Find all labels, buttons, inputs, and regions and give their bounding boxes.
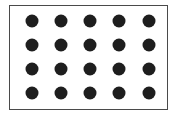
grid-dot bbox=[55, 63, 68, 76]
grid-dot bbox=[26, 15, 39, 28]
grid-dot bbox=[84, 63, 97, 76]
grid-dot bbox=[113, 63, 126, 76]
grid-dot bbox=[113, 87, 126, 100]
grid-dot bbox=[143, 63, 156, 76]
grid-dot bbox=[26, 39, 39, 52]
grid-dot bbox=[55, 15, 68, 28]
grid-dot bbox=[143, 39, 156, 52]
grid-dot bbox=[113, 39, 126, 52]
grid-dot bbox=[26, 87, 39, 100]
grid-dot bbox=[55, 39, 68, 52]
grid-dot bbox=[143, 87, 156, 100]
grid-dot bbox=[113, 15, 126, 28]
grid-dot bbox=[26, 63, 39, 76]
grid-dot bbox=[84, 87, 97, 100]
grid-dot bbox=[84, 39, 97, 52]
grid-dot bbox=[55, 87, 68, 100]
grid-dot bbox=[143, 15, 156, 28]
grid-dot bbox=[84, 15, 97, 28]
